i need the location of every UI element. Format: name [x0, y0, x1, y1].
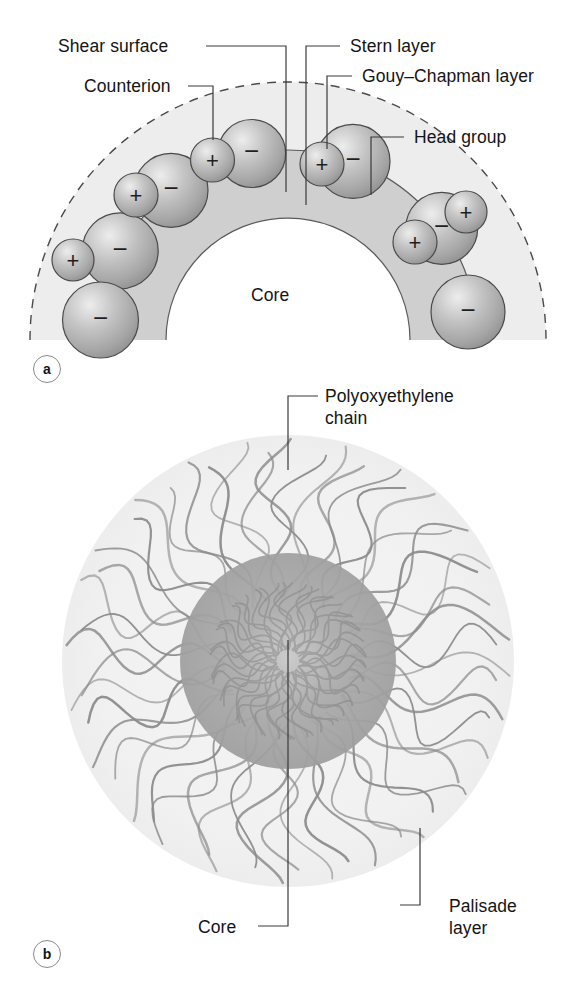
head-group-sphere: −: [82, 213, 158, 289]
label-palisade-layer-line2: layer: [449, 917, 487, 939]
counterion-sphere: +: [52, 239, 94, 281]
label-shear-surface: Shear surface: [58, 35, 168, 57]
svg-text:+: +: [316, 152, 329, 177]
counterion-sphere: +: [114, 173, 158, 217]
label-head-group: Head group: [414, 126, 506, 148]
micelle-figure: − − − − −: [0, 0, 576, 986]
svg-text:−: −: [163, 173, 178, 203]
svg-text:−: −: [113, 234, 128, 264]
svg-text:−: −: [244, 136, 259, 166]
label-palisade-layer-line1: Palisade: [449, 895, 517, 917]
svg-text:−: −: [345, 144, 360, 174]
counterion-sphere: +: [393, 220, 437, 264]
panel-tag-b: b: [33, 940, 61, 968]
svg-text:+: +: [460, 200, 473, 225]
svg-text:−: −: [460, 295, 475, 325]
svg-text:+: +: [206, 148, 219, 173]
label-stern-layer: Stern layer: [350, 35, 436, 57]
panel-tag-a: a: [33, 355, 61, 383]
label-polyoxyethylene-chain-line2: chain: [325, 407, 367, 429]
svg-text:+: +: [67, 248, 80, 273]
head-group-sphere: −: [63, 282, 139, 358]
panel-b-graphic: [62, 396, 514, 926]
counterion-sphere: +: [445, 191, 487, 233]
svg-text:−: −: [93, 303, 108, 333]
svg-text:+: +: [130, 183, 143, 208]
label-counterion: Counterion: [84, 75, 171, 97]
label-polyoxyethylene-chain-line1: Polyoxyethylene: [325, 385, 454, 407]
counterion-sphere: +: [191, 138, 235, 182]
label-gouy-chapman-layer: Gouy–Chapman layer: [362, 65, 534, 87]
head-group-sphere: −: [431, 275, 505, 349]
label-core-a: Core: [251, 284, 289, 306]
label-core-b: Core: [198, 916, 236, 938]
svg-text:+: +: [409, 230, 422, 255]
